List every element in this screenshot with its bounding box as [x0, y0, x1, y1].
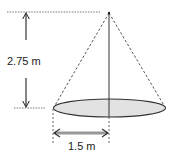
- cone-diagram: 2.75 m 1.5 m: [0, 0, 175, 157]
- cone-slant-left: [54, 13, 109, 107]
- radius-label: 1.5 m: [68, 140, 96, 152]
- height-label: 2.75 m: [7, 55, 41, 67]
- cone-slant-right: [109, 13, 165, 107]
- apex-point: [108, 12, 110, 14]
- cone-svg: 2.75 m 1.5 m: [0, 0, 175, 157]
